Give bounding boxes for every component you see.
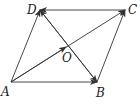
vector-bc (97, 10, 125, 82)
vector-bd (40, 10, 97, 82)
label-a: A (0, 85, 10, 99)
label-c: C (128, 3, 137, 17)
vector-ao-mid (11, 47, 66, 82)
label-o: O (62, 51, 72, 65)
vector-diagram: A B C D O (0, 0, 140, 110)
label-b: B (95, 86, 105, 100)
figure-caption (0, 100, 140, 110)
label-d: D (26, 3, 37, 17)
vector-ad (11, 10, 40, 82)
